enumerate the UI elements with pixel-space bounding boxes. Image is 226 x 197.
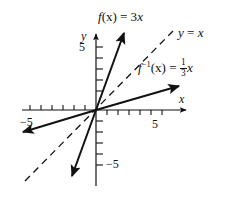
label-function-f: f(x) = 3x bbox=[98, 10, 143, 23]
x-tick-label-negative-5: −5 bbox=[20, 116, 33, 128]
fraction-numerator: 1 bbox=[180, 58, 187, 68]
label-line-y-equals-x: y = x bbox=[178, 26, 203, 39]
label-yx-equals: = bbox=[184, 25, 198, 40]
label-finv-argument: (x) = bbox=[151, 60, 180, 75]
label-f-variable: x bbox=[137, 9, 143, 24]
y-tick-label-negative-5: −5 bbox=[106, 158, 119, 170]
label-finv-fraction: 13 bbox=[180, 58, 187, 78]
line-y-equals-x bbox=[25, 31, 173, 181]
function-inverse-graph-figure: f(x) = 3x f−1(x) = 13x y = x x y 5 5 −5 … bbox=[0, 0, 226, 197]
label-yx-x: x bbox=[198, 25, 204, 40]
x-tick-label-5: 5 bbox=[152, 118, 158, 130]
x-axis bbox=[22, 105, 186, 115]
label-function-f-inverse: f−1(x) = 13x bbox=[138, 58, 193, 78]
label-f-argument: (x) = 3 bbox=[102, 9, 138, 24]
label-finv-variable: x bbox=[187, 60, 193, 75]
label-finv-exponent: −1 bbox=[142, 59, 151, 69]
x-axis-label: x bbox=[179, 93, 184, 105]
y-tick-label-5: 5 bbox=[79, 41, 85, 53]
fraction-denominator: 3 bbox=[180, 68, 187, 79]
